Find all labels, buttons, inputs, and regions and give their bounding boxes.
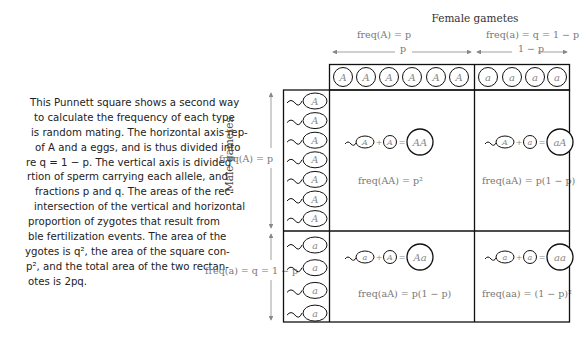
egg-A: A: [357, 68, 376, 87]
egg-A: A: [334, 68, 353, 87]
svg-text:aa: aa: [554, 252, 566, 263]
svg-text:a: a: [528, 253, 533, 262]
male-sperm-column: AAAAAAAaaaa: [287, 93, 327, 321]
sperm-a: a: [287, 305, 327, 321]
egg-a: a: [526, 68, 545, 87]
egg-A: A: [427, 68, 446, 87]
sperm-A: A: [287, 152, 327, 168]
sperm-A: A: [287, 93, 327, 109]
svg-text:+: +: [516, 253, 523, 262]
sperm-a: a: [287, 260, 327, 276]
svg-text:a: a: [485, 72, 491, 83]
svg-text:A: A: [407, 72, 415, 83]
zygote-cell-aa: a+a=aa: [485, 244, 573, 270]
svg-text:+: +: [516, 138, 523, 147]
zygote-cell-aA: A+a=aA: [485, 129, 573, 155]
svg-text:A: A: [311, 174, 319, 185]
svg-text:A: A: [338, 72, 346, 83]
svg-text:a: a: [528, 138, 533, 147]
punnett-square-diagram: AAAAAAaaaa AAAAAAAaaaa A+A=AAA+a=aAa+A=A…: [0, 0, 588, 340]
svg-text:a: a: [312, 240, 318, 251]
sperm-A: A: [287, 113, 327, 129]
svg-text:A: A: [454, 72, 462, 83]
egg-A: A: [380, 68, 399, 87]
svg-text:Aa: Aa: [412, 252, 426, 263]
svg-text:a: a: [312, 285, 318, 296]
svg-text:A: A: [311, 135, 319, 146]
svg-text:=: =: [399, 138, 406, 147]
svg-text:A: A: [386, 138, 393, 147]
sperm-A: A: [287, 132, 327, 148]
svg-text:a: a: [312, 308, 318, 319]
svg-text:A: A: [501, 138, 508, 147]
svg-text:a: a: [509, 72, 515, 83]
svg-text:A: A: [361, 138, 368, 147]
zygote-cell-Aa: a+A=Aa: [345, 244, 433, 270]
sperm-A: A: [287, 171, 327, 187]
egg-a: a: [503, 68, 522, 87]
svg-text:a: a: [532, 72, 538, 83]
svg-text:+: +: [376, 253, 383, 262]
egg-a: a: [548, 68, 567, 87]
egg-A: A: [450, 68, 469, 87]
svg-text:A: A: [311, 194, 319, 205]
svg-text:aA: aA: [553, 137, 566, 148]
zygote-cell-AA: A+A=AA: [345, 129, 433, 155]
zygote-cells: A+A=AAA+a=aAa+A=Aaa+a=aa: [345, 129, 573, 270]
svg-text:A: A: [311, 115, 319, 126]
svg-text:a: a: [312, 262, 318, 273]
svg-text:A: A: [386, 253, 393, 262]
sperm-a: a: [287, 237, 327, 253]
svg-text:A: A: [311, 96, 319, 107]
svg-text:=: =: [399, 253, 406, 262]
sperm-a: a: [287, 282, 327, 298]
svg-text:A: A: [311, 154, 319, 165]
svg-text:A: A: [311, 213, 319, 224]
svg-text:=: =: [539, 138, 546, 147]
svg-text:+: +: [376, 138, 383, 147]
svg-text:A: A: [431, 72, 439, 83]
svg-text:=: =: [539, 253, 546, 262]
sperm-A: A: [287, 191, 327, 207]
svg-text:a: a: [554, 72, 560, 83]
svg-text:AA: AA: [412, 137, 427, 148]
egg-a: a: [479, 68, 498, 87]
female-eggs-row: AAAAAAaaaa: [334, 68, 567, 87]
svg-text:A: A: [384, 72, 392, 83]
sperm-A: A: [287, 211, 327, 227]
svg-text:a: a: [503, 253, 508, 262]
svg-text:a: a: [363, 253, 368, 262]
svg-text:A: A: [361, 72, 369, 83]
egg-A: A: [403, 68, 422, 87]
